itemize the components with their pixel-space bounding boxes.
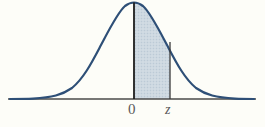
- axis-label-zero: 0: [128, 102, 136, 117]
- axis-label-z: z: [165, 103, 170, 117]
- bell-curve-path: [10, 3, 254, 100]
- normal-distribution-figure: 0 z: [0, 0, 265, 127]
